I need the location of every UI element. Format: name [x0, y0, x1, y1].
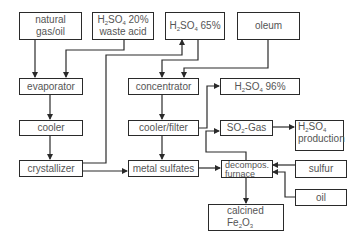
cooler-filter-box: cooler/filter — [128, 120, 199, 136]
crystallizer-label: crystallizer — [27, 163, 74, 175]
evaporator-label: evaporator — [27, 81, 75, 93]
so2-gas-box: SO2-Gas — [220, 120, 273, 136]
fe2o3-formula: Fe2O3 — [227, 217, 253, 229]
cooler-box: cooler — [19, 120, 83, 136]
waste-acid-label: waste acid — [99, 26, 146, 38]
concentrator-label: concentrator — [136, 81, 192, 93]
oleum-label: oleum — [255, 20, 282, 32]
acid-96-box: H2SO4 96% — [220, 78, 300, 95]
cooler-filter-label: cooler/filter — [139, 122, 188, 134]
oleum-box: oleum — [237, 12, 300, 40]
acid-96-label: H2SO4 96% — [234, 81, 285, 93]
waste-acid-box: H2SO4 20% waste acid — [92, 12, 154, 40]
acid-65-box: H2SO4 65% — [165, 12, 225, 40]
concentrator-box: concentrator — [128, 78, 199, 95]
calcined-label: calcined — [227, 205, 264, 217]
crystallizer-box: crystallizer — [19, 160, 83, 177]
natural-gas-oil-box: natural gas/oil — [19, 12, 82, 40]
so2-gas-label: SO2-Gas — [227, 122, 266, 134]
evaporator-box: evaporator — [19, 78, 83, 95]
acid-production-box: H2SO4 production — [295, 120, 344, 151]
cooler-label: cooler — [37, 122, 64, 134]
metal-sulfates-box: metal sulfates — [128, 160, 199, 177]
acid-production-formula: H2SO4 — [298, 121, 326, 133]
calcined-fe2o3-box: calcined Fe2O3 — [208, 204, 284, 231]
waste-acid-formula: H2SO4 20% — [97, 14, 148, 26]
oil-box: oil — [295, 189, 347, 206]
oil-label: oil — [316, 192, 326, 204]
acid-production-label: production — [298, 133, 345, 145]
sulfur-box: sulfur — [295, 160, 347, 178]
acid-65-label: H2SO4 65% — [169, 20, 220, 32]
decomposition-furnace-box: decompos. furnace — [221, 160, 273, 178]
metal-sulfates-label: metal sulfates — [133, 163, 195, 175]
natural-gas-label-line1: natural — [35, 14, 66, 26]
sulfur-label: sulfur — [309, 163, 333, 175]
natural-gas-label-line2: gas/oil — [36, 26, 65, 38]
furnace-label-line2: furnace — [225, 170, 255, 179]
